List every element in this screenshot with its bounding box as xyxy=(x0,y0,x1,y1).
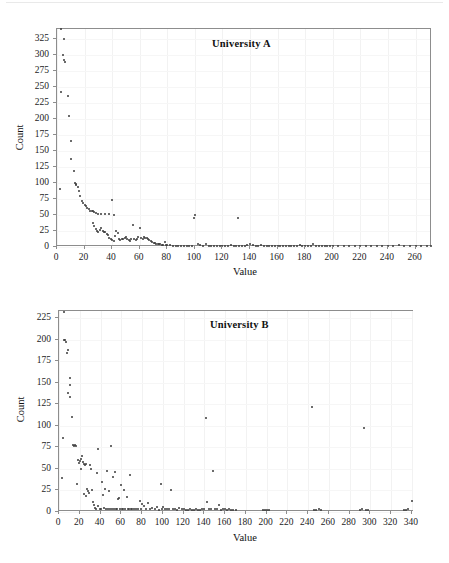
x-tick-label: 180 xyxy=(290,252,318,262)
data-point xyxy=(244,245,246,247)
data-point xyxy=(113,240,115,242)
data-point xyxy=(199,244,201,246)
data-point xyxy=(78,190,80,192)
data-point xyxy=(235,245,237,247)
gridline-vertical xyxy=(225,311,226,510)
data-point xyxy=(80,468,82,470)
data-point xyxy=(130,238,132,240)
data-point xyxy=(110,445,112,447)
data-point xyxy=(70,140,72,142)
x-tick-mark xyxy=(111,246,112,249)
data-point xyxy=(114,235,116,237)
gridline-horizontal xyxy=(57,119,430,120)
x-tick-label: 20 xyxy=(70,252,98,262)
x-tick-label: 160 xyxy=(263,252,291,262)
data-point xyxy=(93,225,95,227)
data-point xyxy=(101,481,103,483)
y-tick-label: 50 xyxy=(18,463,51,473)
x-tick-mark xyxy=(141,511,142,514)
x-tick-mark xyxy=(139,246,140,249)
gridline-vertical xyxy=(370,311,371,510)
data-point xyxy=(104,488,106,490)
data-point xyxy=(60,91,62,93)
data-point xyxy=(241,245,243,247)
data-point xyxy=(210,508,212,510)
data-point xyxy=(343,245,345,247)
x-tick-mark xyxy=(390,511,391,514)
data-point xyxy=(218,504,220,506)
chart-title-university-a: University A xyxy=(212,38,271,49)
gridline-vertical xyxy=(222,29,223,245)
gridline-vertical xyxy=(267,311,268,510)
gridline-vertical xyxy=(85,29,86,245)
data-point xyxy=(235,509,237,511)
data-point xyxy=(168,508,170,510)
data-point xyxy=(321,245,323,247)
x-tick-label: 100 xyxy=(180,252,208,262)
x-tick-label: 60 xyxy=(125,252,153,262)
data-point xyxy=(160,483,162,485)
y-tick-label: 175 xyxy=(16,129,49,139)
x-tick-mark xyxy=(224,511,225,514)
data-point xyxy=(97,448,99,450)
data-point xyxy=(62,54,64,56)
gridline-horizontal xyxy=(57,231,430,232)
data-point xyxy=(67,349,69,351)
data-point xyxy=(176,509,178,511)
x-tick-mark xyxy=(203,511,204,514)
data-point xyxy=(154,508,156,510)
data-point xyxy=(170,489,172,491)
data-point xyxy=(312,243,314,245)
data-point xyxy=(363,427,365,429)
data-point xyxy=(186,245,188,247)
y-tick-mark xyxy=(55,382,58,383)
data-point xyxy=(69,384,71,386)
x-tick-label: 0 xyxy=(42,252,70,262)
data-point xyxy=(69,396,71,398)
gridline-vertical xyxy=(167,29,168,245)
gridline-horizontal xyxy=(59,469,412,470)
data-point xyxy=(268,509,270,511)
gridline-horizontal xyxy=(57,87,430,88)
data-point xyxy=(172,245,174,247)
data-point xyxy=(114,471,116,473)
gridline-vertical xyxy=(246,311,247,510)
y-tick-mark xyxy=(55,468,58,469)
gridline-vertical xyxy=(80,311,81,510)
y-tick-mark xyxy=(53,86,56,87)
gridline-vertical xyxy=(305,29,306,245)
data-point xyxy=(246,244,248,246)
x-tick-mark xyxy=(369,511,370,514)
x-tick-mark xyxy=(332,246,333,249)
y-tick-label: 125 xyxy=(16,161,49,171)
x-tick-label: 40 xyxy=(97,252,125,262)
y-tick-mark xyxy=(53,230,56,231)
data-point xyxy=(65,341,67,343)
x-tick-mark xyxy=(411,511,412,514)
data-point xyxy=(205,243,207,245)
y-tick-mark xyxy=(53,214,56,215)
plot-inner-university-a xyxy=(57,29,430,245)
data-point xyxy=(227,245,229,247)
data-point xyxy=(73,170,75,172)
data-point xyxy=(212,470,214,472)
data-point xyxy=(113,214,115,216)
gridline-horizontal xyxy=(59,447,412,448)
gridline-vertical xyxy=(412,311,413,510)
data-point xyxy=(326,245,328,247)
data-point xyxy=(158,509,160,511)
gridline-horizontal xyxy=(57,55,430,56)
data-point xyxy=(365,245,367,247)
data-point xyxy=(139,500,141,502)
data-point xyxy=(162,244,164,246)
data-point xyxy=(315,245,317,247)
y-tick-mark xyxy=(53,118,56,119)
x-tick-label: 260 xyxy=(401,252,429,262)
data-point xyxy=(216,245,218,247)
data-point xyxy=(85,463,87,465)
data-point xyxy=(100,508,102,510)
data-point xyxy=(129,474,131,476)
y-tick-mark xyxy=(53,198,56,199)
data-point xyxy=(63,311,65,313)
y-tick-mark xyxy=(53,166,56,167)
